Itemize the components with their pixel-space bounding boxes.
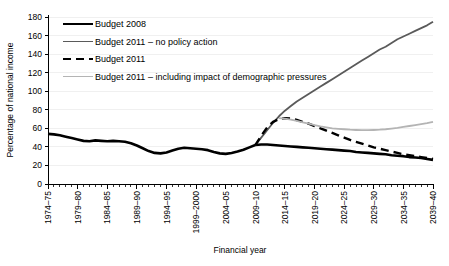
y-tick-label: 120 <box>28 68 42 78</box>
x-tick-label: 2039–40 <box>428 191 438 224</box>
legend: Budget 2008Budget 2011 – no policy actio… <box>63 19 327 81</box>
x-axis <box>48 184 433 189</box>
legend-label-1: Budget 2011 – no policy action <box>95 37 217 47</box>
x-tick-label: 2024–25 <box>339 191 349 224</box>
y-tick-label: 160 <box>28 31 42 41</box>
x-tick-label: 1989–90 <box>132 191 142 224</box>
x-tick-label: 2009–10 <box>251 191 261 224</box>
y-tick-label: 0 <box>37 179 42 189</box>
x-axis-tick-labels: 1974–751979–801984–851989–901994–951999–… <box>43 191 438 234</box>
legend-label-3: Budget 2011 – including impact of demogr… <box>95 72 327 82</box>
y-tick-label: 20 <box>33 160 43 170</box>
x-tick-label: 2014–15 <box>280 191 290 224</box>
x-tick-label: 1984–85 <box>102 191 112 224</box>
y-axis <box>45 15 49 184</box>
y-tick-label: 140 <box>28 49 42 59</box>
line-chart: 020406080100120140160180 1974–751979–801… <box>0 0 449 266</box>
x-tick-label: 1979–80 <box>73 191 83 224</box>
y-axis-title: Percentage of national income <box>5 42 15 157</box>
legend-label-0: Budget 2008 <box>95 19 146 29</box>
chart-container: 020406080100120140160180 1974–751979–801… <box>0 0 449 266</box>
y-axis-tick-labels: 020406080100120140160180 <box>28 12 42 189</box>
y-tick-label: 80 <box>33 105 43 115</box>
x-tick-label: 2029–30 <box>369 191 379 224</box>
x-tick-label: 1999–2000 <box>191 191 201 234</box>
y-tick-label: 180 <box>28 12 42 22</box>
y-tick-label: 60 <box>33 123 43 133</box>
x-tick-label: 2034–35 <box>399 191 409 224</box>
x-axis-title: Financial year <box>214 245 267 255</box>
y-tick-label: 100 <box>28 86 42 96</box>
series-line-2 <box>255 118 433 159</box>
x-tick-label: 1974–75 <box>43 191 53 224</box>
legend-label-2: Budget 2011 <box>95 54 145 64</box>
x-tick-label: 2004–05 <box>221 191 231 224</box>
x-tick-label: 2019–20 <box>310 191 320 224</box>
y-tick-label: 40 <box>33 142 43 152</box>
x-tick-label: 1994–95 <box>162 191 172 224</box>
